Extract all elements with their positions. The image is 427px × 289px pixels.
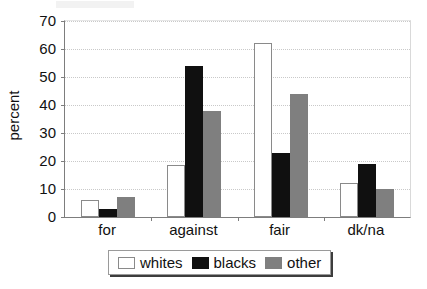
y-tick-label-30: 30 bbox=[39, 125, 56, 140]
bar-group-dk-na bbox=[340, 21, 394, 217]
legend-entry-other[interactable]: other bbox=[265, 255, 321, 270]
bar-group-against bbox=[167, 21, 221, 217]
y-tick-mark-30 bbox=[61, 133, 65, 134]
x-tick-label-dk-na: dk/na bbox=[348, 221, 385, 239]
bar-chart: percent 010203040506070 foragainstfairdk… bbox=[0, 0, 427, 289]
legend-swatch-blacks bbox=[192, 257, 209, 269]
y-tick-mark-10 bbox=[61, 189, 65, 190]
legend-label-blacks: blacks bbox=[214, 255, 257, 270]
y-axis-title: percent bbox=[2, 0, 24, 230]
y-tick-label-60: 60 bbox=[39, 41, 56, 56]
legend-label-whites: whites bbox=[140, 255, 183, 270]
x-tick-label-for: for bbox=[98, 221, 116, 239]
bar-for-blacks bbox=[99, 209, 117, 217]
bar-fair-whites bbox=[254, 43, 272, 217]
y-tick-mark-20 bbox=[61, 161, 65, 162]
x-tick-label-fair: fair bbox=[269, 221, 290, 239]
legend-label-other: other bbox=[287, 255, 321, 270]
bar-against-blacks bbox=[185, 66, 203, 217]
bar-for-other bbox=[117, 197, 135, 217]
y-tick-mark-0 bbox=[61, 217, 65, 218]
bar-dk-na-other bbox=[376, 189, 394, 217]
y-tick-mark-50 bbox=[61, 77, 65, 78]
y-axis-title-label: percent bbox=[5, 90, 22, 140]
legend-swatch-other bbox=[265, 257, 282, 269]
y-tick-label-0: 0 bbox=[48, 209, 56, 224]
x-tick-label-against: against bbox=[169, 221, 217, 239]
x-axis-tick-labels: foragainstfairdk/na bbox=[64, 221, 409, 243]
bar-group-for bbox=[81, 21, 135, 217]
bar-fair-blacks bbox=[272, 153, 290, 217]
bar-against-whites bbox=[167, 165, 185, 217]
y-tick-label-50: 50 bbox=[39, 69, 56, 84]
legend-entry-whites[interactable]: whites bbox=[118, 255, 183, 270]
legend-entry-blacks[interactable]: blacks bbox=[192, 255, 257, 270]
y-axis-tick-labels: 010203040506070 bbox=[22, 12, 60, 224]
bar-dk-na-blacks bbox=[358, 164, 376, 217]
bar-for-whites bbox=[81, 200, 99, 217]
y-tick-label-40: 40 bbox=[39, 97, 56, 112]
bar-group-fair bbox=[254, 21, 308, 217]
y-tick-mark-70 bbox=[61, 21, 65, 22]
legend-swatch-whites bbox=[118, 257, 135, 269]
plot-area bbox=[64, 20, 411, 218]
bar-dk-na-whites bbox=[340, 183, 358, 217]
bar-fair-other bbox=[290, 94, 308, 217]
y-tick-mark-40 bbox=[61, 105, 65, 106]
y-tick-mark-60 bbox=[61, 49, 65, 50]
chart-legend: whitesblacksother bbox=[108, 250, 331, 275]
y-tick-label-20: 20 bbox=[39, 153, 56, 168]
y-tick-label-70: 70 bbox=[39, 13, 56, 28]
y-tick-label-10: 10 bbox=[39, 181, 56, 196]
bar-against-other bbox=[203, 111, 221, 217]
scan-artifact bbox=[56, 1, 134, 8]
